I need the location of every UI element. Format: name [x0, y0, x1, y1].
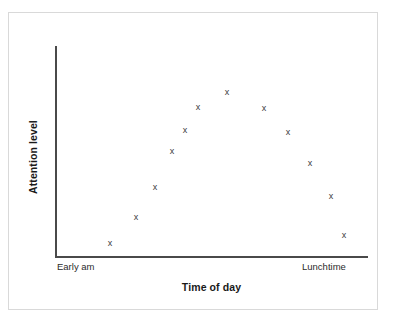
- scatter-plot: xxxxxxxxxxxx Attention level Time of day…: [0, 0, 393, 329]
- data-point: x: [194, 102, 203, 113]
- data-point: x: [223, 87, 232, 98]
- y-axis-title: Attention level: [27, 92, 41, 222]
- data-point: x: [151, 182, 160, 193]
- x-tick-label-lunchtime: Lunchtime: [302, 261, 346, 272]
- x-axis-title: Time of day: [55, 281, 368, 293]
- x-tick-label-early-am: Early am: [57, 261, 94, 272]
- x-axis-line: [55, 256, 368, 258]
- data-point: x: [132, 212, 141, 223]
- data-point: x: [260, 103, 269, 114]
- data-point: x: [181, 125, 190, 136]
- data-point: x: [340, 230, 349, 241]
- y-axis-line: [55, 46, 57, 258]
- data-point: x: [284, 127, 293, 138]
- data-point: x: [327, 191, 336, 202]
- data-point: x: [168, 146, 177, 157]
- figure-container: xxxxxxxxxxxx Attention level Time of day…: [0, 0, 393, 329]
- data-point: x: [306, 158, 315, 169]
- data-point: x: [106, 238, 115, 249]
